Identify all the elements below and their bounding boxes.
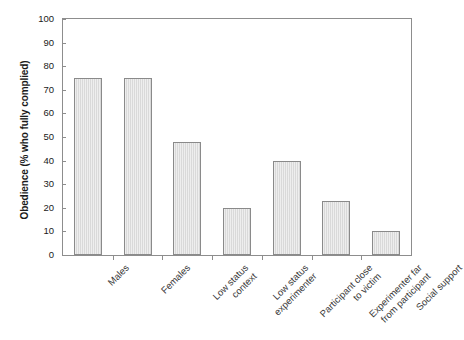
bar-slot	[262, 19, 312, 255]
bar[interactable]	[124, 78, 152, 255]
y-tick-label: 70	[43, 83, 54, 96]
y-tick: 10	[0, 231, 62, 232]
y-tick-label: 50	[43, 130, 54, 143]
y-tick: 30	[0, 184, 62, 185]
x-axis-label-line: Males	[105, 262, 131, 288]
x-tick-mark	[113, 256, 114, 260]
y-tick: 40	[0, 161, 62, 162]
y-tick: 100	[0, 19, 62, 20]
bar[interactable]	[322, 201, 350, 255]
y-tick-label: 40	[43, 154, 54, 167]
x-tick-mark	[212, 256, 213, 260]
y-tick: 60	[0, 113, 62, 114]
bar-slot	[63, 19, 113, 255]
bar[interactable]	[223, 208, 251, 255]
y-tick: 50	[0, 137, 62, 138]
bars-container	[63, 19, 411, 255]
y-tick-label: 80	[43, 59, 54, 72]
y-tick: 0	[0, 255, 62, 256]
bar[interactable]	[74, 78, 102, 255]
x-tick-mark	[312, 256, 313, 260]
y-tick-mark	[62, 255, 66, 256]
x-axis-label-line: Females	[158, 262, 192, 296]
y-tick-label: 90	[43, 36, 54, 49]
x-tick-mark	[162, 256, 163, 260]
y-tick-label: 20	[43, 201, 54, 214]
bar-slot	[113, 19, 163, 255]
y-tick-label: 0	[49, 248, 54, 261]
y-tick-label: 10	[43, 224, 54, 237]
y-tick-label: 100	[38, 12, 54, 25]
bar-slot	[312, 19, 362, 255]
y-tick-label: 30	[43, 177, 54, 190]
x-axis-label: Low statuscontext	[211, 262, 259, 310]
bar[interactable]	[173, 142, 201, 255]
x-axis-label: Males	[105, 262, 131, 288]
y-tick-label: 60	[43, 106, 54, 119]
x-tick-mark	[361, 256, 362, 260]
x-axis-label: Low statusexperimenter	[263, 262, 318, 317]
bar-slot	[361, 19, 411, 255]
bar-slot	[162, 19, 212, 255]
bar-slot	[212, 19, 262, 255]
x-tick-mark	[262, 256, 263, 260]
y-tick: 70	[0, 90, 62, 91]
y-tick: 90	[0, 43, 62, 44]
bar[interactable]	[273, 161, 301, 255]
y-tick: 20	[0, 208, 62, 209]
x-axis-label: Females	[158, 262, 192, 296]
y-tick: 80	[0, 66, 62, 67]
bar[interactable]	[372, 231, 400, 255]
